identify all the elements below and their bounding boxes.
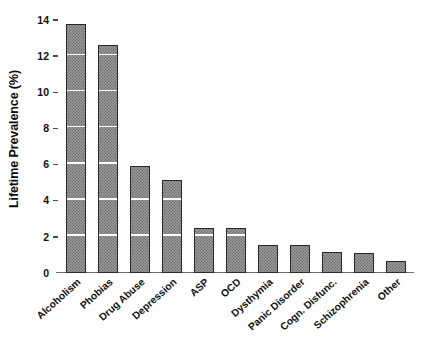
gridline	[99, 90, 117, 92]
bar-other	[386, 261, 406, 273]
y-tick-label: 4	[43, 195, 49, 206]
bar-slot	[348, 12, 380, 273]
y-tick-mark	[53, 19, 58, 20]
bar-drug-abuse	[130, 166, 150, 273]
bar-slot	[316, 12, 348, 273]
bar-dysthymia	[258, 245, 278, 273]
gridline	[131, 234, 149, 236]
bar-alcoholism	[66, 24, 86, 273]
y-tick-8: 8	[24, 121, 58, 135]
y-tick-10: 10	[24, 85, 58, 99]
gridline	[99, 162, 117, 164]
gridline	[67, 90, 85, 92]
gridline	[67, 54, 85, 56]
bar-schizophrenia	[354, 253, 374, 273]
x-label-slot: ASP	[188, 274, 220, 348]
y-tick-mark	[53, 200, 58, 201]
bar-slot	[60, 12, 92, 273]
bar-asp	[194, 228, 214, 273]
x-axis-label: Other	[376, 277, 403, 303]
y-tick-label: 6	[43, 159, 49, 170]
bar-slot	[92, 12, 124, 273]
bar-ocd	[226, 228, 246, 273]
y-tick-mark	[53, 92, 58, 93]
gridline	[131, 198, 149, 200]
gridline	[99, 54, 117, 56]
bar-slot	[156, 12, 188, 273]
gridline	[67, 162, 85, 164]
bar-chart: Lifetime Prevalence (%) 02468101214 Alco…	[0, 0, 424, 348]
bar-panic-disorder	[290, 245, 310, 273]
gridline	[99, 234, 117, 236]
plot-area	[60, 12, 412, 273]
y-tick-mark	[53, 236, 58, 237]
y-tick-mark	[53, 128, 58, 129]
gridline	[99, 126, 117, 128]
y-tick-2: 2	[24, 230, 58, 244]
y-tick-mark	[53, 164, 58, 165]
y-tick-label: 14	[37, 15, 49, 26]
gridline	[67, 198, 85, 200]
gridline	[99, 198, 117, 200]
y-tick-label: 2	[43, 232, 49, 243]
x-label-slot: Other	[380, 274, 412, 348]
y-tick-label: 10	[37, 87, 49, 98]
y-tick-4: 4	[24, 194, 58, 208]
x-axis-label: OCD	[219, 277, 243, 300]
y-tick-mark	[53, 55, 58, 56]
x-label-slot: Schizophrenia	[348, 274, 380, 348]
y-tick-14: 14	[24, 13, 58, 27]
y-tick-0: 0	[24, 266, 58, 280]
gridline	[195, 234, 213, 236]
y-axis-title-text: Lifetime Prevalence (%)	[7, 70, 21, 208]
bar-cogn-disfunc	[322, 252, 342, 273]
y-tick-label: 0	[43, 268, 49, 279]
y-tick-label: 12	[37, 51, 49, 62]
bar-slot	[380, 12, 412, 273]
x-label-slot: Depression	[156, 274, 188, 348]
bar-phobias	[98, 45, 118, 273]
x-axis-label: Alcoholism	[35, 277, 83, 321]
gridline	[67, 126, 85, 128]
bar-slot	[188, 12, 220, 273]
y-tick-12: 12	[24, 49, 58, 63]
bar-slot	[284, 12, 316, 273]
gridline	[67, 234, 85, 236]
bar-depression	[162, 180, 182, 273]
bar-slot	[220, 12, 252, 273]
bar-slot	[124, 12, 156, 273]
y-tick-6: 6	[24, 158, 58, 172]
gridline	[163, 198, 181, 200]
gridline	[163, 234, 181, 236]
y-tick-label: 8	[43, 123, 49, 134]
x-axis-labels: AlcoholismPhobiasDrug AbuseDepressionASP…	[60, 274, 412, 348]
x-label-slot: Alcoholism	[60, 274, 92, 348]
gridline	[227, 234, 245, 236]
x-axis-label: ASP	[188, 277, 210, 299]
bar-slot	[252, 12, 284, 273]
